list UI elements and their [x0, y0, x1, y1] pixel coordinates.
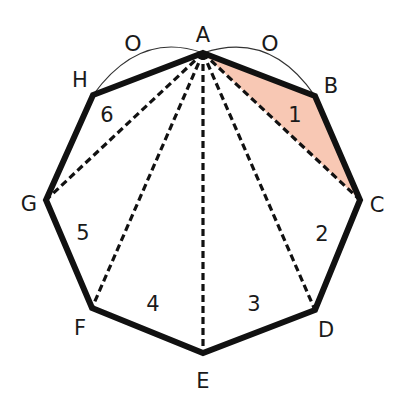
vertex-label-F: F — [74, 316, 86, 340]
triangle-number-4: 4 — [146, 292, 159, 316]
triangle-number-3: 3 — [247, 292, 260, 316]
triangle-number-6: 6 — [100, 103, 113, 127]
equal-side-mark-right: O — [261, 31, 278, 56]
triangle-number-1: 1 — [288, 103, 301, 127]
vertex-label-A: A — [196, 23, 211, 47]
diagonal-AG — [46, 53, 203, 200]
vertex-label-B: B — [324, 74, 338, 98]
vertex-label-C: C — [370, 193, 385, 217]
vertex-label-H: H — [72, 68, 88, 92]
equal-side-mark-left: O — [124, 31, 141, 56]
vertex-label-E: E — [196, 369, 209, 393]
vertex-label-G: G — [21, 192, 37, 216]
vertex-label-D: D — [318, 318, 334, 342]
triangle-number-2: 2 — [315, 222, 328, 246]
octagon-diagram: A B C D E F G H 1 2 3 4 5 6 O O — [0, 0, 411, 405]
triangle-number-5: 5 — [76, 221, 89, 245]
